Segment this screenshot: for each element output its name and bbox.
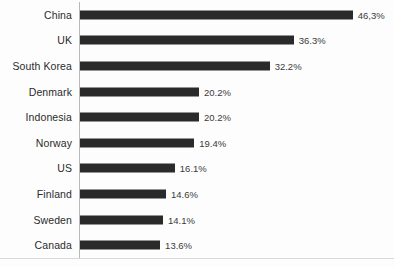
bar-row: Sweden14.1% <box>0 207 394 233</box>
category-label: China <box>0 9 72 21</box>
category-label: US <box>0 162 72 174</box>
bar <box>80 241 160 250</box>
bar-row: China46,3% <box>0 2 394 28</box>
bar <box>80 138 194 147</box>
category-label: Norway <box>0 137 72 149</box>
bar-value-label: 32.2% <box>275 61 302 70</box>
bar-value-label: 13.6% <box>165 241 192 250</box>
chart-bottom-rule <box>0 258 394 259</box>
bar-value-label: 20.2% <box>204 113 231 122</box>
category-label: Indonesia <box>0 111 72 123</box>
bar-track: 19.4% <box>80 138 226 147</box>
bar <box>80 87 199 96</box>
bar-row: Norway19.4% <box>0 130 394 156</box>
category-label: Denmark <box>0 86 72 98</box>
category-label: South Korea <box>0 60 72 72</box>
bar <box>80 113 199 122</box>
bar-value-label: 36.3% <box>299 36 326 45</box>
category-label: Canada <box>0 239 72 251</box>
category-label: Sweden <box>0 214 72 226</box>
bar-row: Finland14.6% <box>0 181 394 207</box>
bar-row: Denmark20.2% <box>0 79 394 105</box>
bar <box>80 189 166 198</box>
bar-row: Canada13.6% <box>0 232 394 258</box>
bar-chart: China46,3%UK36.3%South Korea32.2%Denmark… <box>0 0 394 267</box>
bar <box>80 61 270 70</box>
bar-row: UK36.3% <box>0 28 394 54</box>
category-label: UK <box>0 34 72 46</box>
bar-row: US16.1% <box>0 156 394 182</box>
bar <box>80 36 294 45</box>
bar-track: 32.2% <box>80 61 302 70</box>
bar-track: 36.3% <box>80 36 326 45</box>
bar-value-label: 14.1% <box>168 215 195 224</box>
bar-track: 14.6% <box>80 189 198 198</box>
category-label: Finland <box>0 188 72 200</box>
bar-track: 13.6% <box>80 241 192 250</box>
bar-track: 20.2% <box>80 87 231 96</box>
bar-track: 46,3% <box>80 10 385 19</box>
bar-track: 14.1% <box>80 215 195 224</box>
bar-row: South Korea32.2% <box>0 53 394 79</box>
bar-value-label: 14.6% <box>171 189 198 198</box>
bar-value-label: 46,3% <box>358 10 385 19</box>
bar-row: Indonesia20.2% <box>0 104 394 130</box>
bar-track: 20.2% <box>80 113 231 122</box>
bar-value-label: 20.2% <box>204 87 231 96</box>
category-axis-line <box>79 2 80 258</box>
bar-value-label: 19.4% <box>199 138 226 147</box>
bar-value-label: 16.1% <box>180 164 207 173</box>
bar-track: 16.1% <box>80 164 207 173</box>
bar <box>80 10 353 19</box>
bar <box>80 215 163 224</box>
bar <box>80 164 175 173</box>
bar-chart-plot-area: China46,3%UK36.3%South Korea32.2%Denmark… <box>0 0 394 258</box>
